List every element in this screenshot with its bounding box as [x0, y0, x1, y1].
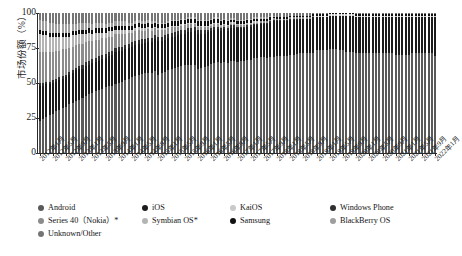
- bar-column: [85, 13, 87, 153]
- bar-segment: [302, 53, 304, 153]
- bar-segment: [78, 23, 80, 30]
- bar-segment: [269, 23, 271, 57]
- bar-segment: [62, 37, 64, 50]
- bar-segment: [42, 86, 44, 120]
- bar-segment: [326, 17, 328, 50]
- bar-column: [415, 13, 417, 153]
- bar-segment: [161, 41, 163, 73]
- y-tick-75: 75: [10, 43, 36, 53]
- bar-segment: [39, 20, 41, 30]
- bar-column: [91, 13, 93, 153]
- bar-segment: [161, 30, 163, 37]
- legend-item-samsung[interactable]: Samsung: [230, 216, 270, 225]
- bar-column: [118, 13, 120, 153]
- legend-swatch-icon: [38, 231, 44, 237]
- bar-column: [167, 13, 169, 153]
- bar-segment: [72, 47, 74, 71]
- legend-item-label: Symbian OS*: [152, 216, 198, 225]
- bar-column: [210, 13, 212, 153]
- bar-segment: [52, 23, 54, 33]
- bar-segment: [382, 17, 384, 53]
- bar-segment: [55, 13, 57, 24]
- bar-segment: [105, 58, 107, 87]
- bar-column: [352, 13, 354, 153]
- bar-segment: [105, 38, 107, 53]
- bar-segment: [111, 37, 113, 51]
- bar-segment: [114, 52, 116, 84]
- bar-segment: [144, 43, 146, 73]
- bar-segment: [329, 16, 331, 49]
- bar-segment: [75, 35, 77, 45]
- bar-column: [421, 13, 423, 153]
- bar-column: [81, 13, 83, 153]
- bar-segment: [398, 17, 400, 54]
- bar-segment: [55, 82, 57, 111]
- bar-segment: [329, 49, 331, 153]
- bar-segment: [85, 42, 87, 62]
- bar-segment: [114, 13, 116, 21]
- bar-segment: [65, 24, 67, 32]
- bar-column: [164, 13, 166, 153]
- bar-column: [276, 13, 278, 153]
- legend-item-android[interactable]: Android: [38, 203, 75, 212]
- bar-column: [141, 13, 143, 153]
- legend-item-kaios[interactable]: KaiOS: [230, 203, 262, 212]
- bar-segment: [98, 40, 100, 57]
- legend-item-windows-phone[interactable]: Windows Phone: [330, 203, 394, 212]
- bar-column: [131, 13, 133, 153]
- bar-segment: [85, 34, 87, 42]
- bar-column: [111, 13, 113, 153]
- bar-column: [236, 13, 238, 153]
- legend-item-unknown-other[interactable]: Unknown/Other: [38, 229, 101, 238]
- bar-column: [388, 13, 390, 153]
- bar-column: [204, 13, 206, 153]
- bar-segment: [339, 16, 341, 51]
- bar-segment: [164, 40, 166, 72]
- legend-item-blackberry-os[interactable]: BlackBerry OS: [330, 216, 390, 225]
- bar-segment: [121, 34, 123, 47]
- bar-column: [418, 13, 420, 153]
- bar-segment: [68, 75, 70, 104]
- bar-column: [283, 13, 285, 153]
- legend-item-series-40-nokia[interactable]: Series 40（Nokia）*: [38, 216, 118, 225]
- legend-item-label: BlackBerry OS: [340, 216, 390, 225]
- bar-segment: [58, 51, 60, 78]
- bar-segment: [58, 80, 60, 109]
- legend-swatch-icon: [230, 205, 236, 211]
- bar-column: [144, 13, 146, 153]
- bar-segment: [62, 13, 64, 24]
- bar-segment: [263, 24, 265, 57]
- bar-segment: [358, 17, 360, 53]
- bar-segment: [260, 24, 262, 57]
- bar-segment: [111, 55, 113, 86]
- bar-segment: [289, 55, 291, 153]
- bar-segment: [190, 32, 192, 65]
- bar-column: [154, 13, 156, 153]
- legend-item-ios[interactable]: iOS: [142, 203, 165, 212]
- bar-segment: [204, 34, 206, 67]
- legend-item-label: Unknown/Other: [48, 229, 101, 238]
- bar-segment: [250, 27, 252, 60]
- bar-segment: [91, 13, 93, 24]
- bar-segment: [227, 31, 229, 63]
- bar-segment: [85, 66, 87, 95]
- bar-segment: [174, 37, 176, 69]
- bar-segment: [302, 19, 304, 54]
- bar-segment: [177, 13, 179, 20]
- bar-segment: [424, 17, 426, 53]
- bar-segment: [200, 13, 202, 20]
- bar-segment: [418, 17, 420, 53]
- bar-column: [269, 13, 271, 153]
- bar-segment: [118, 13, 120, 21]
- bar-segment: [293, 20, 295, 55]
- legend-item-symbian-os[interactable]: Symbian OS*: [142, 216, 198, 225]
- bar-column: [55, 13, 57, 153]
- bar-segment: [388, 17, 390, 53]
- bar-segment: [121, 13, 123, 21]
- bar-column: [342, 13, 344, 153]
- bar-segment: [111, 13, 113, 23]
- bar-segment: [200, 34, 202, 68]
- bar-segment: [121, 51, 123, 82]
- bar-column: [358, 13, 360, 153]
- y-tickmark-0: [36, 153, 39, 154]
